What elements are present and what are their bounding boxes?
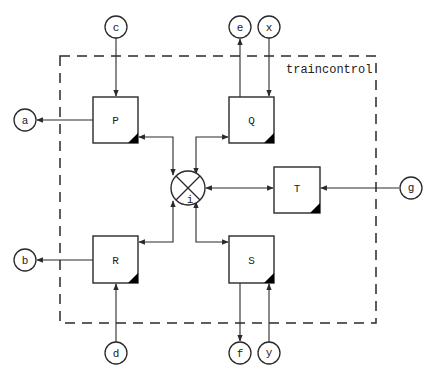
connections [37,38,399,342]
terminal-d[interactable]: d [105,342,127,364]
terminal-label: g [408,182,415,194]
interface-i[interactable]: i [171,171,205,206]
terminal-x[interactable]: x [258,16,280,38]
system-label: traincontrol [286,63,372,77]
terminal-b[interactable]: b [14,249,36,271]
edge-P-i [139,137,173,175]
process-S[interactable]: S [229,236,274,283]
process-P[interactable]: P [93,97,138,143]
terminal-label: y [266,347,273,359]
terminal-y[interactable]: y [258,342,280,364]
terminal-label: d [113,348,120,360]
process-label: Q [248,115,255,127]
process-Q[interactable]: Q [229,97,274,143]
terminal-label: f [237,348,244,360]
edge-R-i [139,201,173,242]
edge-S-i [196,202,228,242]
terminal-f[interactable]: f [229,342,251,364]
terminal-c[interactable]: c [105,16,127,38]
terminal-label: x [266,22,273,34]
terminal-g[interactable]: g [400,177,422,199]
traincontrol-diagram: traincontrol P [0,0,436,379]
process-label: T [294,183,301,195]
terminal-e[interactable]: e [229,16,251,38]
process-label: P [112,115,119,127]
interface-label: i [187,194,194,206]
terminal-label: a [22,115,29,127]
terminal-label: e [237,22,244,34]
process-R[interactable]: R [93,236,138,283]
terminal-label: c [113,22,120,34]
process-label: S [248,255,255,267]
process-T[interactable]: T [274,167,320,213]
process-label: R [112,255,119,267]
terminal-a[interactable]: a [14,109,36,131]
edge-Q-i [196,137,228,174]
terminal-label: b [22,255,29,267]
